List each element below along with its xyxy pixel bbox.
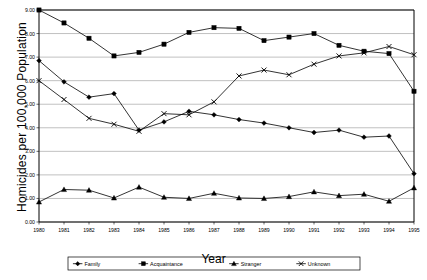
data-point-marker (212, 112, 217, 117)
data-point-marker (287, 125, 292, 130)
grid-lines (39, 10, 414, 222)
data-point-marker (112, 54, 116, 58)
data-point-marker (262, 39, 266, 43)
data-point-marker (237, 73, 242, 78)
data-point-marker (387, 44, 392, 49)
x-tick-label: 1989 (258, 227, 270, 233)
data-point-marker (412, 171, 417, 176)
data-point-marker (362, 135, 367, 140)
series-unknown (37, 44, 417, 134)
data-point-marker (387, 134, 392, 139)
chart-container: Homicides per 100,000 Population Year 0.… (0, 0, 427, 280)
x-tick-label: 1981 (58, 227, 70, 233)
series-stranger (36, 185, 416, 205)
series-line (39, 61, 414, 174)
x-axis-title: Year (0, 252, 427, 266)
x-tick-label: 1992 (333, 227, 345, 233)
x-tick-label: 1995 (408, 227, 420, 233)
data-point-marker (62, 97, 67, 102)
y-axis-title: Homicides per 100,000 Population (15, 7, 29, 227)
x-tick-label: 1988 (233, 227, 245, 233)
data-point-marker (87, 116, 92, 121)
data-point-marker (137, 50, 141, 54)
series-line (39, 187, 414, 202)
data-point-marker (337, 43, 341, 47)
plot-frame (39, 10, 414, 222)
data-point-marker (187, 30, 191, 34)
series-line (39, 10, 414, 91)
data-point-marker (287, 35, 291, 39)
data-point-marker (262, 121, 267, 126)
data-point-marker (36, 199, 41, 204)
x-tick-label: 1983 (108, 227, 120, 233)
data-point-marker (112, 91, 117, 96)
series-line (39, 47, 414, 132)
data-point-marker (237, 117, 242, 122)
line-chart-plot: 0.001.002.003.004.005.006.007.008.009.00… (0, 0, 427, 280)
data-point-marker (87, 95, 92, 100)
series-family (37, 58, 417, 176)
data-point-marker (312, 130, 317, 135)
x-tick-label: 1984 (133, 227, 145, 233)
data-point-marker (411, 185, 416, 190)
data-point-marker (412, 89, 416, 93)
data-point-marker (112, 122, 117, 127)
x-tick-label: 1986 (183, 227, 195, 233)
data-point-marker (62, 21, 66, 25)
data-point-marker (312, 62, 317, 67)
x-tick-label: 1990 (283, 227, 295, 233)
data-point-marker (212, 99, 217, 104)
data-point-marker (337, 128, 342, 133)
data-point-marker (237, 26, 241, 30)
data-point-marker (311, 189, 316, 194)
data-point-marker (212, 26, 216, 30)
data-point-marker (37, 8, 41, 12)
x-tick-label: 1991 (308, 227, 320, 233)
x-axis-ticks: 1980198119821983198419851986198719881989… (33, 222, 420, 233)
data-point-marker (162, 119, 167, 124)
x-tick-label: 1982 (83, 227, 95, 233)
x-tick-label: 1985 (158, 227, 170, 233)
x-tick-label: 1994 (383, 227, 395, 233)
x-tick-label: 1993 (358, 227, 370, 233)
data-point-marker (162, 42, 166, 46)
data-point-marker (312, 31, 316, 35)
data-point-marker (211, 191, 216, 196)
data-point-marker (387, 51, 391, 55)
data-point-marker (87, 36, 91, 40)
x-tick-label: 1980 (33, 227, 45, 233)
x-tick-label: 1987 (208, 227, 220, 233)
data-point-marker (136, 185, 141, 190)
